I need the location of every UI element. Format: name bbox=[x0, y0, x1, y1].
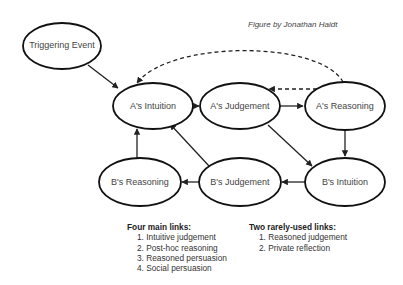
edge-trigger-to-a-intuition bbox=[88, 65, 118, 88]
legend-rare-links: Two rarely-used links: 1. Reasoned judge… bbox=[249, 222, 347, 253]
label-a-intuition: A's Intuition bbox=[130, 101, 176, 111]
label-b-judgement: B's Judgement bbox=[210, 177, 270, 187]
legend-main-links: Four main links: 1. Intuitive judgement … bbox=[127, 222, 227, 273]
legend-main-item: 2. Post-hoc reasoning bbox=[137, 243, 227, 253]
legend-rare-item: 1. Reasoned judgement bbox=[259, 232, 347, 242]
legend-rare-title: Two rarely-used links: bbox=[249, 222, 347, 232]
legend-rare-item: 2. Private reflection bbox=[259, 243, 347, 253]
label-b-reasoning: B's Reasoning bbox=[111, 177, 169, 187]
edge-a-judgement-to-b-intuition bbox=[268, 125, 312, 166]
label-b-intuition: B's Intuition bbox=[322, 177, 368, 187]
edge-a-reasoning-to-a-intuition-dashed bbox=[137, 51, 343, 83]
legend-main-item: 3. Reasoned persuasion bbox=[137, 253, 227, 263]
legend-main-title: Four main links: bbox=[127, 222, 227, 232]
edge-b-judgement-to-a-intuition bbox=[170, 124, 209, 166]
label-triggering-event: Triggering Event bbox=[29, 40, 95, 50]
label-a-judgement: A's Judgement bbox=[210, 101, 270, 111]
legend-main-item: 1. Intuitive judgement bbox=[137, 232, 227, 242]
label-a-reasoning: A's Reasoning bbox=[316, 101, 374, 111]
legend-main-item: 4. Social persuasion bbox=[137, 263, 227, 273]
